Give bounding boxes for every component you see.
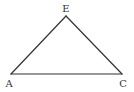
edge-e-c: [66, 16, 122, 74]
triangle-diagram: E A C: [0, 0, 134, 92]
vertex-label-c: C: [119, 78, 127, 89]
vertex-label-e: E: [62, 3, 69, 14]
vertex-label-a: A: [4, 78, 13, 89]
edge-a-e: [11, 16, 66, 74]
